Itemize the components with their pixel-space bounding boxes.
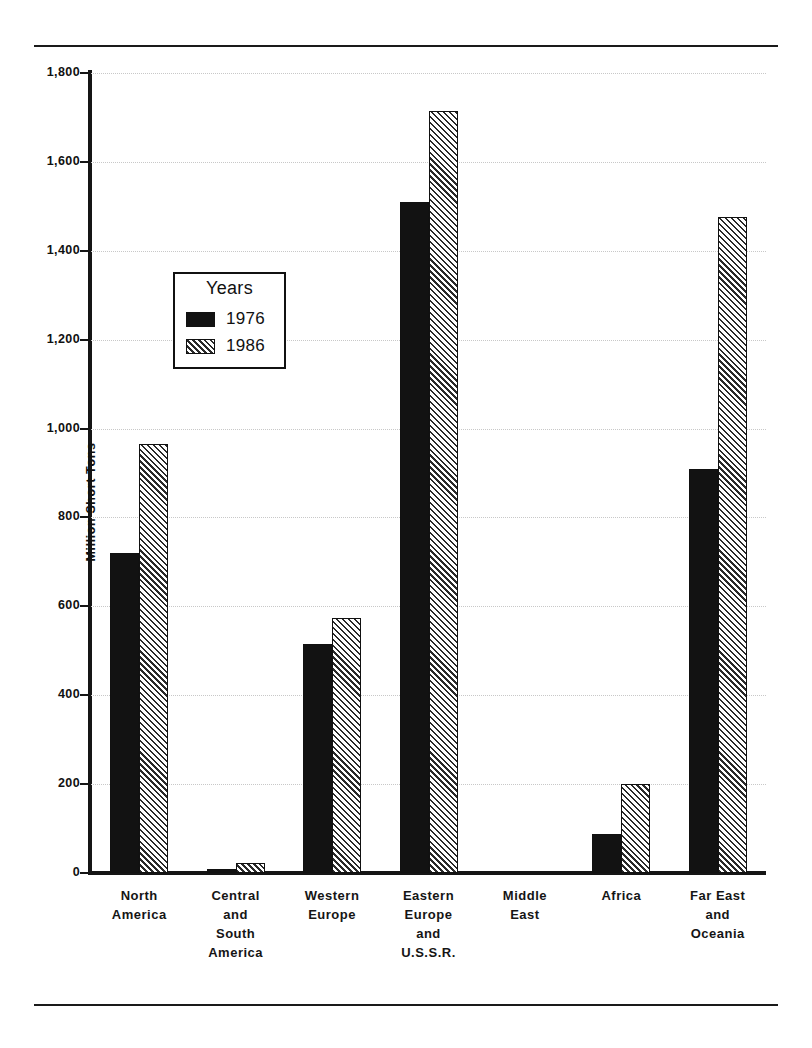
bar: [718, 217, 747, 873]
legend-swatch-1986: [186, 339, 215, 354]
y-tick-mark: [80, 783, 88, 785]
y-axis-tick-labels: 02004006008001,0001,2001,4001,6001,800: [8, 0, 80, 1048]
y-tick-label: 1,600: [18, 154, 80, 168]
bar: [689, 469, 718, 873]
y-tick-label: 200: [18, 776, 80, 790]
legend-entry-1986: 1986: [186, 336, 281, 357]
y-tick-label: 400: [18, 687, 80, 701]
category-label: North America: [91, 886, 187, 924]
bar: [332, 618, 361, 873]
plot-area: [91, 73, 766, 873]
bar: [207, 869, 236, 873]
y-tick-mark: [80, 339, 88, 341]
y-tick-label: 1,200: [18, 332, 80, 346]
legend-label-1986: 1986: [226, 336, 265, 356]
gridline: [91, 73, 766, 74]
figure-top-rule: [34, 45, 778, 47]
bar: [400, 202, 429, 873]
y-tick-mark: [80, 516, 88, 518]
bar: [621, 784, 650, 873]
y-tick-mark: [80, 250, 88, 252]
y-tick-mark: [80, 161, 88, 163]
y-tick-label: 0: [18, 865, 80, 879]
legend-entry-1976: 1976: [186, 309, 281, 330]
y-tick-label: 1,400: [18, 243, 80, 257]
category-label: Western Europe: [284, 886, 380, 924]
chart-legend: Years 1976 1986: [173, 272, 286, 369]
figure-bottom-rule: [34, 1004, 778, 1006]
category-label: Central and South America: [187, 886, 283, 962]
y-tick-mark: [80, 872, 88, 874]
y-tick-label: 800: [18, 509, 80, 523]
category-label: Eastern Europe and U.S.S.R.: [380, 886, 476, 962]
bar: [110, 553, 139, 873]
bar: [139, 444, 168, 873]
legend-label-1976: 1976: [226, 309, 265, 329]
y-tick-label: 1,000: [18, 421, 80, 435]
y-tick-label: 1,800: [18, 65, 80, 79]
y-tick-mark: [80, 694, 88, 696]
y-tick-mark: [80, 72, 88, 74]
y-tick-label: 600: [18, 598, 80, 612]
chart-figure: 02004006008001,0001,2001,4001,6001,800 M…: [0, 0, 812, 1048]
bar: [592, 834, 621, 873]
bar: [303, 644, 332, 873]
category-label: Far East and Oceania: [670, 886, 766, 943]
legend-swatch-1976: [186, 312, 215, 327]
bar: [429, 111, 458, 873]
y-tick-mark: [80, 605, 88, 607]
y-tick-mark: [80, 428, 88, 430]
legend-title: Years: [175, 278, 284, 299]
bar: [236, 863, 265, 873]
category-label: Africa: [573, 886, 669, 905]
category-label: Middle East: [477, 886, 573, 924]
